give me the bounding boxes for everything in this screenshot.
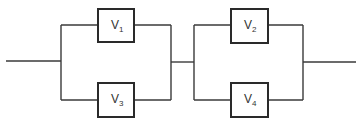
block-v3: V3 (98, 83, 134, 117)
block-v2: V2 (231, 9, 268, 43)
block-v1: V1 (98, 9, 134, 42)
series-parallel-diagram: V1 V3 V2 V4 (0, 0, 361, 127)
block-v4: V4 (231, 83, 268, 117)
parallel-group-1: V1 V3 (61, 9, 171, 117)
parallel-group-2: V2 V4 (194, 9, 303, 117)
